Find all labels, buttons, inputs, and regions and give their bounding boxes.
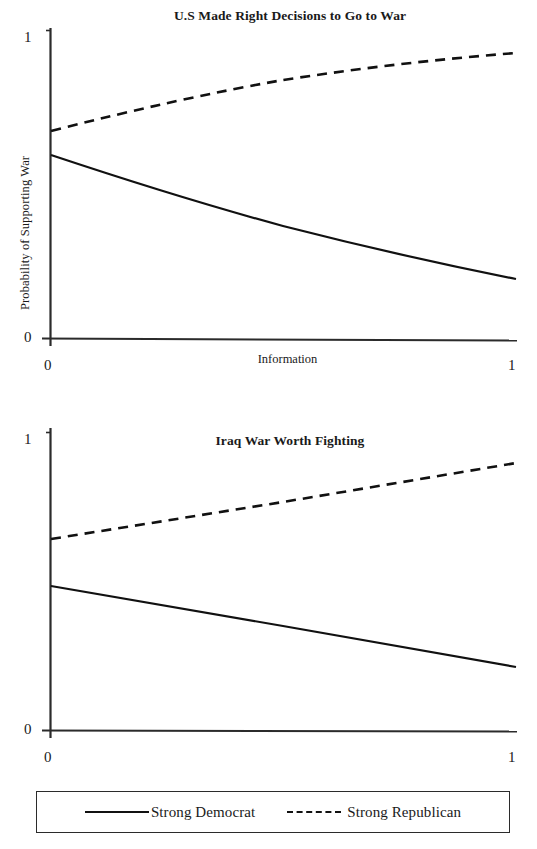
plot-area-2 (0, 400, 537, 795)
legend-label-strong-democrat: Strong Democrat (151, 804, 255, 821)
legend-dashed-line-icon (281, 806, 345, 818)
legend-label-strong-republican: Strong Republican (347, 804, 461, 821)
chart-panel-2: Iraq War Worth Fighting Probability of S… (0, 400, 537, 785)
figure-page: U.S Made Right Decisions to Go to War Pr… (0, 0, 537, 849)
legend-entries: Strong Democrat Strong Republican (37, 792, 509, 832)
plot-area-1 (0, 0, 537, 395)
series-line-strong-republican-1 (51, 53, 516, 131)
series-line-strong-republican-2 (51, 463, 516, 539)
legend-entry-strong-democrat: Strong Democrat (85, 804, 255, 821)
series-line-strong-democrat-2 (51, 586, 516, 667)
legend: Strong Democrat Strong Republican (36, 791, 510, 833)
legend-entry-strong-republican: Strong Republican (281, 804, 461, 821)
legend-solid-line-icon (85, 806, 149, 818)
chart-panel-1: U.S Made Right Decisions to Go to War Pr… (0, 0, 537, 395)
series-line-strong-democrat-1 (51, 155, 516, 279)
x-axis-line-2 (42, 731, 517, 732)
x-axis-line-1 (42, 339, 517, 341)
